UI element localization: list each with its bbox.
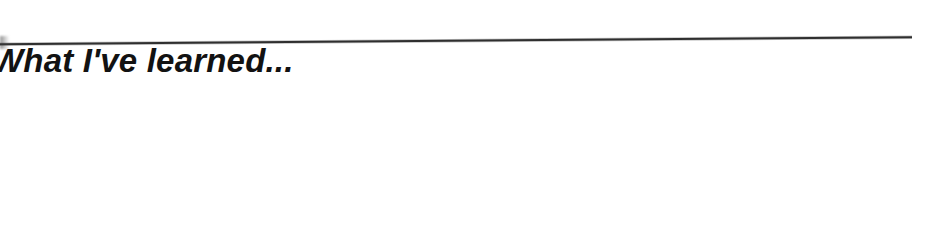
slide-page: What I've learned... [0,0,947,245]
slide-body-area [0,90,947,245]
page-title: What I've learned... [0,44,392,84]
